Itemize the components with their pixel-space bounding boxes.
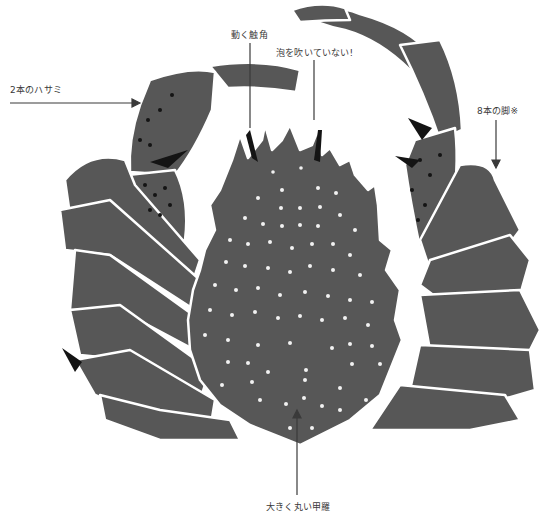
label-bubbles: 泡を吹いていない! (276, 46, 353, 59)
label-legs: 8本の脚※ (477, 104, 518, 117)
right-claw-finger (292, 4, 350, 22)
label-claws: 2本のハサミ (10, 83, 62, 96)
right-arm-segment (400, 40, 462, 140)
label-antennae: 動く触角 (231, 28, 268, 41)
carapace (188, 125, 402, 445)
label-shell: 大きく丸い甲羅 (266, 500, 330, 513)
left-claw-pincer (210, 63, 300, 92)
